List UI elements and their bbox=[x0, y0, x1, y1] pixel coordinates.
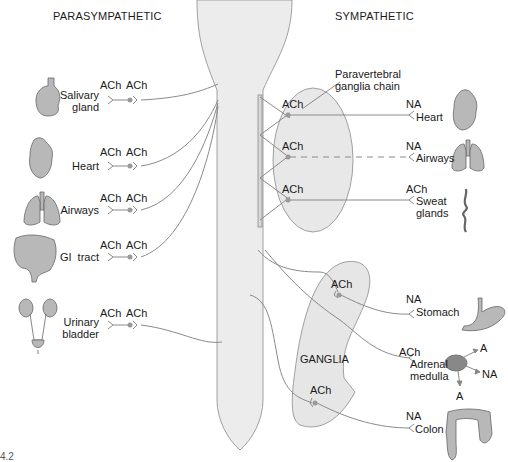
paravertebral-label-2: ganglia chain bbox=[335, 80, 400, 92]
paravertebral-label: Paravertebral bbox=[335, 68, 401, 80]
parasympathetic-header: PARASYMPATHETIC bbox=[53, 10, 162, 22]
diagram-graphics bbox=[0, 0, 508, 462]
organ-label-heart: Heart bbox=[50, 160, 99, 172]
ganglia-post-transmitter: NA bbox=[406, 293, 421, 305]
adrenal-pre-transmitter: ACh bbox=[399, 346, 420, 358]
organ-label-salivary-2: gland bbox=[60, 101, 99, 113]
stomach-icon bbox=[462, 298, 505, 331]
para-pre-transmitter: ACh bbox=[100, 239, 121, 251]
organ-label-adrenal: Adrenal bbox=[410, 358, 448, 370]
organ-label-gi-tract: GI tract bbox=[50, 251, 99, 263]
organ-label-sweat-2: glands bbox=[416, 207, 448, 219]
para-post-transmitter: ACh bbox=[126, 192, 147, 204]
organ-label-airways: Airways bbox=[50, 204, 99, 216]
para-post-transmitter: ACh bbox=[126, 79, 147, 91]
chain-pre-transmitter: ACh bbox=[282, 98, 303, 110]
salivary-gland-icon bbox=[36, 78, 60, 116]
para-pre-transmitter: ACh bbox=[100, 192, 121, 204]
para-post-transmitter: ACh bbox=[126, 146, 147, 158]
organ-label-heart-symp: Heart bbox=[416, 111, 443, 123]
organ-label-colon: Colon bbox=[415, 423, 444, 435]
para-post-transmitter: ACh bbox=[126, 239, 147, 251]
organ-label-urinary: Urinary bbox=[50, 316, 99, 328]
airways-icon-right bbox=[452, 140, 484, 171]
ganglia-label: GANGLIA bbox=[300, 353, 349, 365]
colon-icon bbox=[446, 409, 492, 460]
organ-label-urinary-2: bladder bbox=[50, 328, 99, 340]
paravertebral-chain-bar bbox=[258, 95, 262, 227]
chain-post-transmitter: NA bbox=[406, 140, 421, 152]
para-pre-transmitter: ACh bbox=[100, 146, 121, 158]
organ-label-sweat: Sweat bbox=[416, 195, 447, 207]
adrenal-output-a: A bbox=[480, 342, 487, 354]
chain-post-transmitter: ACh bbox=[406, 183, 427, 195]
sweat-gland-icon bbox=[463, 189, 467, 232]
organ-label-adrenal-2: medulla bbox=[410, 370, 449, 382]
organ-label-airways-symp: Airways bbox=[416, 152, 455, 164]
heart-icon-right bbox=[453, 90, 477, 130]
chain-pre-transmitter: ACh bbox=[282, 140, 303, 152]
para-post-transmitter: ACh bbox=[126, 307, 147, 319]
adrenal-output-na: NA bbox=[482, 368, 497, 380]
organ-label-stomach: Stomach bbox=[416, 306, 459, 318]
autonomic-nervous-system-diagram: PARASYMPATHETIC SYMPATHETIC ACh ACh Sali… bbox=[0, 0, 508, 462]
figure-number: 4.2 bbox=[0, 452, 14, 462]
chain-post-transmitter: NA bbox=[406, 98, 421, 110]
spinal-cord bbox=[197, 0, 292, 450]
organ-label-salivary: Salivary bbox=[60, 89, 99, 101]
para-pre-transmitter: ACh bbox=[100, 307, 121, 319]
ganglia-post-transmitter: NA bbox=[406, 410, 421, 422]
chain-pre-transmitter: ACh bbox=[282, 183, 303, 195]
ganglia-pre-transmitter: ACh bbox=[310, 384, 331, 396]
adrenal-output-a-2: A bbox=[456, 390, 463, 402]
parasympathetic-synapses bbox=[108, 96, 137, 329]
para-pre-transmitter: ACh bbox=[100, 79, 121, 91]
sympathetic-header: SYMPATHETIC bbox=[335, 10, 414, 22]
ganglia-pre-transmitter: ACh bbox=[331, 278, 352, 290]
adrenal-medulla-icon bbox=[445, 349, 480, 386]
